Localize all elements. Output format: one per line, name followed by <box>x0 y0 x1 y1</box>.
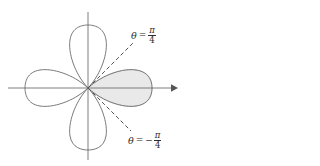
lower-theta-symbol: θ <box>128 136 134 146</box>
lower-numerator: π <box>154 131 162 140</box>
upper-equals-sign: = <box>138 31 148 40</box>
lower-denominator: 4 <box>154 141 161 150</box>
lower-minus-sign: − <box>145 136 153 145</box>
lower-angle-label: θ = − π 4 <box>128 131 161 150</box>
upper-theta-symbol: θ <box>131 31 137 41</box>
upper-fraction: π 4 <box>148 26 156 45</box>
x-axis-arrowhead <box>171 84 178 92</box>
upper-angle-label: θ = π 4 <box>131 26 156 45</box>
upper-numerator: π <box>148 26 156 35</box>
lower-equals-sign: = <box>135 136 145 145</box>
upper-denominator: 4 <box>148 36 155 45</box>
lower-fraction: π 4 <box>154 131 162 150</box>
